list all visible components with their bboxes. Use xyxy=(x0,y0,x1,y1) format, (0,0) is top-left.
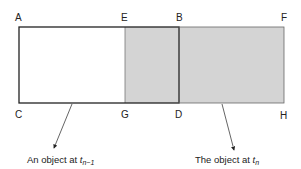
point-label-G: G xyxy=(121,109,129,120)
point-label-D: D xyxy=(175,109,182,120)
point-label-E: E xyxy=(121,12,128,23)
caption-curr: The object at tn xyxy=(195,154,259,166)
point-label-A: A xyxy=(15,12,22,23)
caption-prev: An object at tn−1 xyxy=(27,154,94,166)
point-label-H: H xyxy=(280,110,287,121)
point-label-F: F xyxy=(281,12,287,23)
point-label-B: B xyxy=(176,12,183,23)
shaded-region xyxy=(125,27,284,103)
arrow-prev xyxy=(54,104,72,148)
diagram-canvas: A E B F C G D H An object at tn−1 The ob… xyxy=(0,0,301,169)
arrow-curr xyxy=(222,104,234,150)
point-label-C: C xyxy=(15,109,22,120)
